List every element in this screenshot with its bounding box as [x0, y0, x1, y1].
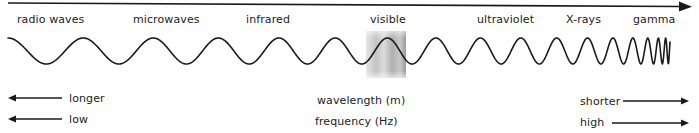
band-label-visible: visible [370, 13, 406, 26]
band-label-gamma: gamma [633, 13, 675, 26]
frequency-low-label: low [69, 113, 88, 126]
frequency-high-label: high [580, 116, 604, 129]
em-wave [8, 38, 670, 64]
band-label-microwaves: microwaves [133, 13, 200, 26]
wavelength-longer-label: longer [69, 92, 105, 105]
band-label-ultraviolet: ultraviolet [477, 13, 534, 26]
wavelength-shorter-label: shorter [580, 95, 620, 108]
band-label-infrared: infrared [246, 13, 290, 26]
frequency-axis-label: frequency (Hz) [315, 115, 398, 128]
wavelength-left-arrow [8, 95, 62, 102]
frequency-right-arrow [612, 120, 689, 127]
wavelength-axis-label: wavelength (m) [317, 94, 405, 107]
wavelength-right-arrow [623, 98, 689, 105]
frequency-left-arrow [8, 116, 62, 123]
em-spectrum-diagram: radio waves microwaves infrared visible … [0, 0, 699, 133]
band-label-radio: radio waves [17, 13, 84, 26]
top-direction-arrow [8, 2, 692, 12]
band-label-xrays: X-rays [566, 13, 601, 26]
